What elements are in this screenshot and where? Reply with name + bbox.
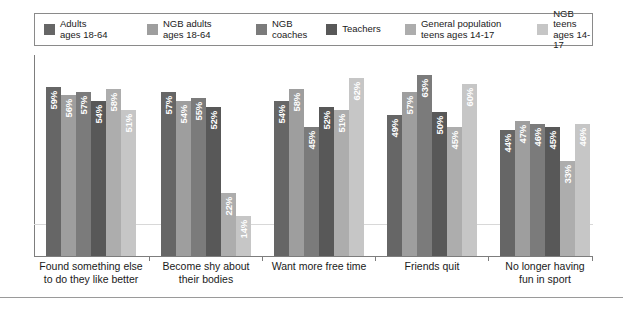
legend-item-label: NGB teens ages 14-17: [553, 9, 592, 51]
bar-group: 57%54%55%52%22%14%: [161, 55, 251, 256]
bar[interactable]: 14%: [236, 216, 251, 256]
bar-value-label: 33%: [562, 165, 573, 183]
bar-value-label: 54%: [178, 105, 189, 123]
bar[interactable]: 44%: [500, 130, 515, 256]
bar[interactable]: 45%: [545, 127, 560, 256]
legend-swatch-icon: [256, 24, 267, 35]
x-axis-labels: Found something else to do they like bet…: [34, 260, 593, 292]
bar[interactable]: 63%: [417, 75, 432, 256]
bar-value-label: 57%: [78, 96, 89, 114]
bar[interactable]: 55%: [191, 98, 206, 256]
bar-value-label: 45%: [449, 131, 460, 149]
bar-value-label: 22%: [223, 197, 234, 215]
bar-value-label: 54%: [93, 105, 104, 123]
legend-item-label: NGB adults ages 18-64: [163, 19, 212, 40]
bar[interactable]: 60%: [462, 84, 477, 256]
bar-value-label: 52%: [321, 111, 332, 129]
legend-item-2[interactable]: NGB coaches: [247, 19, 317, 40]
y-axis-line: [34, 55, 35, 256]
bottom-divider: [0, 297, 623, 298]
x-axis-label: Want more free time: [254, 260, 384, 273]
x-axis-label: No longer having fun in sport: [480, 260, 610, 285]
bar-value-label: 58%: [291, 93, 302, 111]
bar-value-label: 45%: [547, 131, 558, 149]
bar[interactable]: 62%: [349, 78, 364, 256]
legend-swatch-icon: [537, 24, 548, 35]
legend-item-label: NGB coaches: [272, 19, 307, 40]
bar-group: 54%58%45%52%51%62%: [274, 55, 364, 256]
legend-item-label: General population teens ages 14-17: [421, 19, 501, 40]
bar-value-label: 51%: [123, 114, 134, 132]
bar-value-label: 54%: [276, 105, 287, 123]
bar[interactable]: 22%: [221, 193, 236, 256]
bar[interactable]: 58%: [289, 89, 304, 256]
bar[interactable]: 56%: [61, 95, 76, 256]
bar-value-label: 58%: [108, 93, 119, 111]
legend-item-3[interactable]: Teachers: [317, 24, 396, 35]
legend-swatch-icon: [405, 24, 416, 35]
bar[interactable]: 45%: [447, 127, 462, 256]
bar-value-label: 60%: [464, 88, 475, 106]
bar-value-label: 56%: [63, 99, 74, 117]
legend-swatch-icon: [44, 24, 55, 35]
bar-value-label: 44%: [502, 134, 513, 152]
bar-value-label: 63%: [419, 79, 430, 97]
bar[interactable]: 54%: [274, 101, 289, 256]
bar-value-label: 45%: [306, 131, 317, 149]
bar[interactable]: 54%: [176, 101, 191, 256]
bar-group: 44%47%46%45%33%46%: [500, 55, 590, 256]
bar-value-label: 47%: [517, 125, 528, 143]
bar-value-label: 50%: [434, 116, 445, 134]
bar[interactable]: 51%: [334, 110, 349, 256]
bar[interactable]: 57%: [161, 92, 176, 256]
legend-item-0[interactable]: Adults ages 18-64: [35, 19, 138, 40]
bar-value-label: 59%: [48, 91, 59, 109]
legend-item-5[interactable]: NGB teens ages 14-17: [528, 9, 592, 51]
bar-value-label: 57%: [163, 96, 174, 114]
chart-legend: Adults ages 18-64NGB adults ages 18-64NG…: [34, 13, 593, 46]
bar-value-label: 51%: [336, 114, 347, 132]
legend-item-label: Adults ages 18-64: [60, 19, 108, 40]
bar-group: 59%56%57%54%58%51%: [46, 55, 136, 256]
bar[interactable]: 57%: [76, 92, 91, 256]
bar-value-label: 46%: [532, 128, 543, 146]
bar[interactable]: 52%: [319, 107, 334, 256]
bar[interactable]: 58%: [106, 89, 121, 256]
bar[interactable]: 59%: [46, 87, 61, 256]
bar-group: 49%57%63%50%45%60%: [387, 55, 477, 256]
bar[interactable]: 49%: [387, 115, 402, 256]
legend-swatch-icon: [147, 24, 158, 35]
bar-value-label: 57%: [404, 96, 415, 114]
bar-value-label: 49%: [389, 119, 400, 137]
bar[interactable]: 45%: [304, 127, 319, 256]
bar-value-label: 55%: [193, 102, 204, 120]
plot-area: 59%56%57%54%58%51%57%54%55%52%22%14%54%5…: [34, 55, 593, 256]
x-axis-label: Found something else to do they like bet…: [26, 260, 156, 285]
x-axis-label: Become shy about their bodies: [141, 260, 271, 285]
bar[interactable]: 54%: [91, 101, 106, 256]
bar[interactable]: 51%: [121, 110, 136, 256]
bar[interactable]: 57%: [402, 92, 417, 256]
bar[interactable]: 47%: [515, 121, 530, 256]
x-axis-label: Friends quit: [367, 260, 497, 273]
bar[interactable]: 52%: [206, 107, 221, 256]
bar-value-label: 52%: [208, 111, 219, 129]
legend-item-1[interactable]: NGB adults ages 18-64: [138, 19, 247, 40]
bar[interactable]: 46%: [575, 124, 590, 256]
legend-swatch-icon: [326, 24, 337, 35]
bar[interactable]: 50%: [432, 112, 447, 256]
bar[interactable]: 46%: [530, 124, 545, 256]
bar-value-label: 14%: [238, 220, 249, 238]
legend-item-4[interactable]: General population teens ages 14-17: [396, 19, 528, 40]
legend-item-label: Teachers: [342, 24, 381, 35]
bar-value-label: 62%: [351, 82, 362, 100]
bar-value-label: 46%: [577, 128, 588, 146]
bar[interactable]: 33%: [560, 161, 575, 256]
x-axis-line: [34, 256, 593, 257]
